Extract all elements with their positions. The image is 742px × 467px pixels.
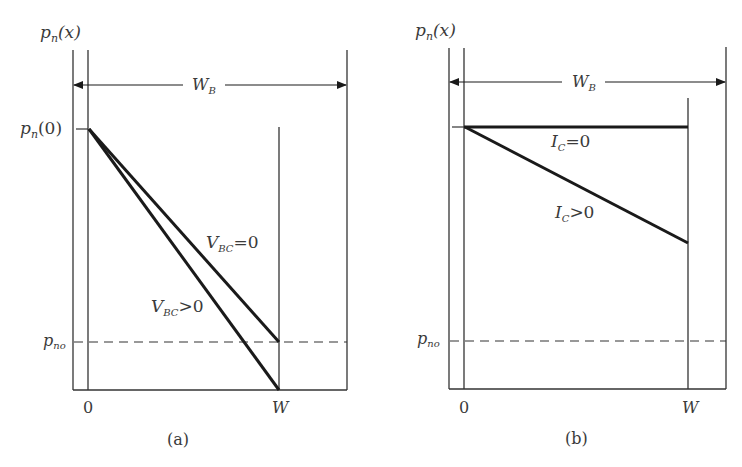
diagram-canvas: pn(x) WB pn(0) pno VBC=0 VBC> [0,0,742,467]
x-tick-w: W [682,398,700,417]
panel-a: pn(x) WB pn(0) pno VBC=0 VBC> [20,22,347,449]
pno-label: pno [43,331,66,351]
caption-b: (b) [565,429,588,448]
wb-label: WB [572,72,596,93]
panel-b: pn(x) WB pno IC=0 IC>0 0 W (b) [415,20,726,448]
label-ic-positive: IC>0 [554,202,594,224]
label-ic-zero: IC=0 [550,131,590,153]
x-tick-w: W [272,398,290,417]
pn0-label: pn(0) [20,118,62,141]
label-vbc-zero: VBC=0 [206,232,259,254]
y-axis-label: pn(x) [40,22,81,45]
caption-a: (a) [167,430,189,449]
y-axis-label: pn(x) [415,20,456,43]
label-vbc-positive: VBC>0 [151,296,204,318]
x-tick-zero: 0 [83,398,93,417]
x-tick-zero: 0 [459,398,469,417]
wb-label: WB [192,75,216,96]
curve-vbc-positive [89,129,279,390]
pno-label: pno [417,329,440,349]
